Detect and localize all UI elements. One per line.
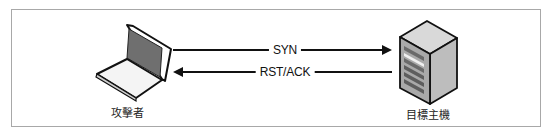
attacker-label: 攻擊者 bbox=[111, 104, 144, 120]
server-icon bbox=[400, 21, 457, 104]
target-label: 目標主機 bbox=[406, 106, 450, 122]
laptop-icon bbox=[96, 25, 171, 101]
syn-label: SYN bbox=[269, 43, 301, 57]
rst-ack-label: RST/ACK bbox=[256, 65, 315, 79]
